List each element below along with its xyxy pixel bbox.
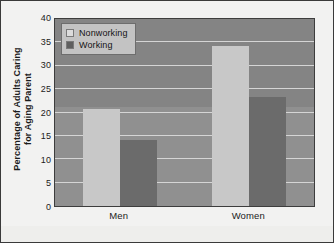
legend-item-nonworking: Nonworking xyxy=(66,27,128,39)
y-tick-label: 35 xyxy=(33,37,51,47)
legend-item-working: Working xyxy=(66,39,128,51)
x-tick-label: Men xyxy=(109,210,128,221)
bar-women-working xyxy=(249,97,286,206)
y-axis-title-line2: for Aging Parent xyxy=(22,47,33,170)
y-axis-title: Percentage of Adults Caring for Aging Pa… xyxy=(9,19,35,199)
y-tick-label: 5 xyxy=(33,178,51,188)
figure-bottom-margin xyxy=(1,226,333,242)
x-tick-label: Women xyxy=(232,210,265,221)
bar-men-working xyxy=(120,140,157,206)
y-tick-label: 20 xyxy=(33,108,51,118)
y-tick-label: 0 xyxy=(33,202,51,212)
y-tick-label: 25 xyxy=(33,84,51,94)
gridline xyxy=(55,18,314,19)
y-tick-label: 40 xyxy=(33,13,51,23)
legend-label-nonworking: Nonworking xyxy=(79,28,128,38)
y-tick-label: 15 xyxy=(33,131,51,141)
legend-swatch-nonworking xyxy=(66,29,74,37)
legend-swatch-working xyxy=(66,41,74,49)
y-tick-label: 30 xyxy=(33,60,51,70)
legend: Nonworking Working xyxy=(61,23,136,55)
legend-label-working: Working xyxy=(79,40,113,50)
y-axis-title-line1: Percentage of Adults Caring xyxy=(12,47,22,170)
bar-men-nonworking xyxy=(83,109,120,206)
plot-area: Nonworking Working xyxy=(54,18,315,207)
y-tick-label: 10 xyxy=(33,155,51,165)
gridline xyxy=(55,88,314,89)
y-axis-ticks: 0510152025303540 xyxy=(33,1,51,243)
chart-figure: Percentage of Adults Caring for Aging Pa… xyxy=(0,0,334,243)
x-axis-ticks: MenWomen xyxy=(54,210,315,226)
bar-women-nonworking xyxy=(212,46,249,206)
gridline xyxy=(55,65,314,66)
